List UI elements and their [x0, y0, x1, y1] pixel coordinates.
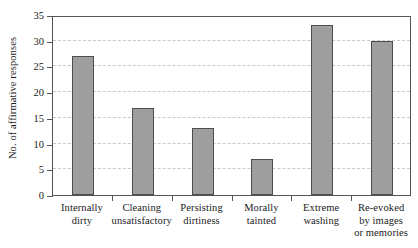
- x-axis-label-line: Re-evoked: [347, 202, 415, 215]
- y-tick-label: 30: [4, 37, 44, 47]
- bar: [72, 56, 94, 195]
- gridline: [53, 40, 410, 41]
- bar: [132, 108, 154, 195]
- x-axis-label-line: Cleaning: [108, 202, 176, 215]
- gridline: [53, 91, 410, 92]
- x-axis-label-line: tainted: [228, 215, 296, 228]
- y-tick-label: 25: [4, 62, 44, 72]
- gridline: [53, 168, 410, 169]
- x-tick-mark: [232, 196, 233, 201]
- x-axis-label: Morallytainted: [228, 202, 296, 227]
- plot-area: [52, 16, 411, 196]
- gridline: [53, 143, 410, 144]
- x-axis-label-line: dirty: [48, 215, 116, 228]
- x-tick-mark: [351, 196, 352, 201]
- bar: [311, 25, 333, 195]
- x-axis-label-line: Persisting: [168, 202, 236, 215]
- x-axis-label-line: Internally: [48, 202, 116, 215]
- bar: [251, 159, 273, 195]
- x-axis-label-line: Morally: [228, 202, 296, 215]
- x-tick-mark: [172, 196, 173, 201]
- x-axis-label: Persistingdirtiness: [168, 202, 236, 227]
- y-tick-label: 15: [4, 114, 44, 124]
- x-axis-label-line: by images: [347, 215, 415, 228]
- y-tick-label: 0: [4, 191, 44, 201]
- x-tick-mark: [291, 196, 292, 201]
- y-tick-label: 10: [4, 140, 44, 150]
- x-axis-label-line: washing: [287, 215, 355, 228]
- x-axis-label: Internallydirty: [48, 202, 116, 227]
- y-tick-mark: [47, 196, 53, 197]
- y-tick-label: 35: [4, 11, 44, 21]
- bar-chart: No. of affirmative responses 05101520253…: [0, 0, 418, 248]
- y-tick-label: 20: [4, 88, 44, 98]
- x-axis-label: Extremewashing: [287, 202, 355, 227]
- x-tick-mark: [112, 196, 113, 201]
- x-axis-label: Cleaningunsatisfactory: [108, 202, 176, 227]
- bar: [371, 41, 393, 195]
- y-tick-label: 5: [4, 165, 44, 175]
- x-axis-label: Re-evokedby imagesor memories: [347, 202, 415, 240]
- x-axis-label-line: dirtiness: [168, 215, 236, 228]
- x-axis-label-line: unsatisfactory: [108, 215, 176, 228]
- gridline: [53, 117, 410, 118]
- gridline: [53, 65, 410, 66]
- x-axis-label-line: or memories: [347, 227, 415, 240]
- bar: [192, 128, 214, 195]
- x-axis-label-line: Extreme: [287, 202, 355, 215]
